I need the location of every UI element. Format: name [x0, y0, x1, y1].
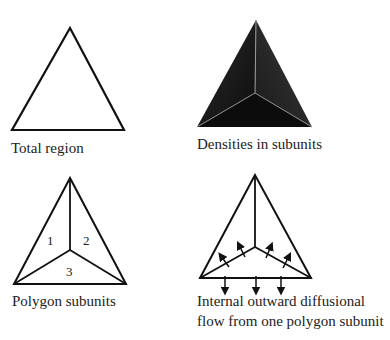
flow-arrows [221, 245, 289, 291]
diffusional-flow-label-line2: flow from one polygon subunit [197, 312, 384, 331]
subunit-number-1: 1 [47, 231, 54, 250]
polygon-subunits-label: Polygon subunits [12, 292, 116, 311]
total-region-triangle [12, 28, 124, 130]
subunit-number-3: 3 [66, 262, 73, 281]
diffusional-flow-label-line1: Internal outward diffusional [197, 292, 365, 311]
subunit-number-2: 2 [83, 231, 90, 250]
diffusional-flow-triangle [200, 175, 311, 278]
densities-triangle [197, 20, 312, 127]
densities-label: Densities in subunits [197, 135, 322, 154]
diagram-canvas [0, 0, 390, 340]
total-region-label: Total region [11, 139, 84, 158]
